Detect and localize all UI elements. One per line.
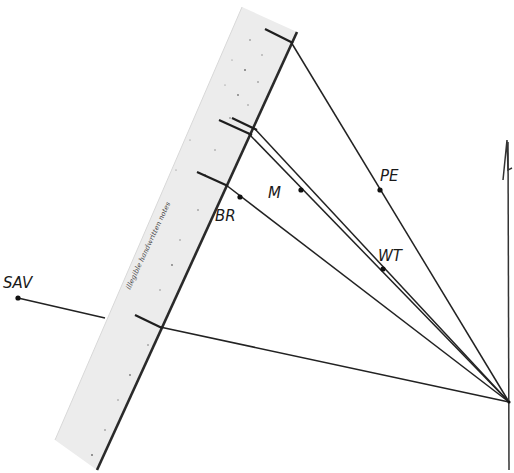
label-wt: WT (378, 247, 404, 265)
ray-sav-outer (18, 298, 105, 318)
point-br (237, 194, 242, 199)
point-pe (377, 187, 382, 192)
ray-m (248, 133, 509, 402)
north-line (508, 142, 509, 470)
north-arrow (503, 140, 512, 470)
ruler: illegible handwritten notes (55, 7, 297, 470)
ray-sav (160, 327, 509, 402)
ray-pe (291, 42, 509, 402)
ruler-working-edge (97, 32, 297, 470)
label-sav: SAV (3, 274, 34, 292)
convergence-point (507, 400, 510, 403)
point-sav (15, 295, 20, 300)
label-br: BR (215, 207, 236, 225)
ruler-body (55, 7, 297, 470)
point-wt (380, 266, 385, 271)
ray-br (226, 185, 509, 402)
ruler-back-edge (55, 7, 242, 440)
resection-diagram: illegible handwritten notes PE WT M BR (0, 0, 514, 473)
label-pe: PE (380, 167, 399, 185)
point-m (298, 187, 303, 192)
label-m: M (268, 184, 281, 202)
